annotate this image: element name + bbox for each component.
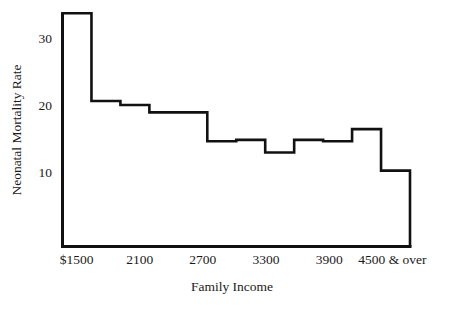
x-tick-label-3900: 3900: [316, 252, 343, 267]
y-tick-labels: 302010: [39, 31, 53, 180]
x-tick-labels: $150021002700330039004500 & over: [60, 252, 427, 267]
y-tick-label-30: 30: [39, 31, 53, 46]
plot-background: [61, 14, 410, 247]
x-tick-label-2700: 2700: [189, 252, 216, 267]
step-chart: 302010 $150021002700330039004500 & over …: [0, 0, 451, 314]
y-tick-label-20: 20: [39, 98, 53, 113]
y-axis-title: Neonatal Mortality Rate: [9, 64, 24, 195]
x-axis-title: Family Income: [191, 279, 273, 294]
chart-container: 302010 $150021002700330039004500 & over …: [0, 0, 451, 314]
x-tick-label-1500: $1500: [60, 252, 94, 267]
y-tick-label-10: 10: [39, 165, 53, 180]
x-tick-label-3300: 3300: [253, 252, 280, 267]
x-tick-label-2100: 2100: [126, 252, 153, 267]
x-tick-label-4500: 4500 & over: [358, 252, 427, 267]
